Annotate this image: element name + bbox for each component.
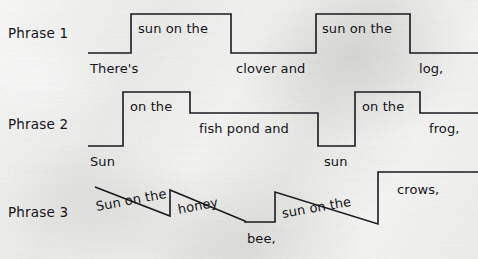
word-phrase-2-on-the-b: on the xyxy=(362,100,404,113)
word-phrase-2-on-the-a: on the xyxy=(130,100,172,113)
word-phrase-1-sun-on-the-a: sun on the xyxy=(138,22,208,35)
row-label-phrase-2: Phrase 2 xyxy=(8,118,68,132)
word-phrase-2-frog: frog, xyxy=(429,122,459,135)
word-phrase-1-clover-and: clover and xyxy=(236,62,305,75)
word-phrase-3-bee: bee, xyxy=(247,232,276,245)
word-phrase-2-sun-a: Sun xyxy=(90,155,115,168)
word-phrase-1-sun-on-the-b: sun on the xyxy=(322,22,392,35)
word-phrase-2-fish-pond-and: fish pond and xyxy=(199,122,289,135)
row-label-phrase-1: Phrase 1 xyxy=(8,27,68,41)
word-phrase-1-theres: There's xyxy=(90,62,138,75)
row-label-phrase-3: Phrase 3 xyxy=(8,206,68,220)
diagram-canvas: Phrase 1 Phrase 2 Phrase 3 There's sun o… xyxy=(0,0,478,259)
word-phrase-1-log: log, xyxy=(419,62,443,75)
word-phrase-3-crows: crows, xyxy=(397,183,439,196)
word-phrase-2-sun-b: sun xyxy=(324,155,348,168)
